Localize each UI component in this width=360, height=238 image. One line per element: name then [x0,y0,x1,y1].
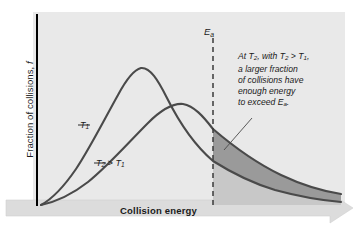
t2-compare-subscript: 1 [121,161,125,168]
annotation-line1-c: > [288,51,298,61]
plot-canvas [0,0,360,238]
y-axis-label-text: Fraction of collisions, [24,64,35,158]
annotation-line1-b: , with [257,51,279,61]
annotation-line5-a: to exceed [238,97,278,107]
maxwell-boltzmann-distribution-figure: Fraction of collisions, f Collision ener… [0,0,360,238]
annotation-line5-b: . [287,97,289,107]
activation-energy-subscript: a [210,31,214,38]
t1-subscript: 1 [86,123,90,130]
y-axis-label: Fraction of collisions, f [24,25,35,195]
t2-relation: > [105,158,115,168]
activation-energy-label: Ea [204,26,214,38]
annotation-line4: enough energy [238,86,295,96]
annotation-line3: of collisions have [238,75,303,85]
annotation-line1-a: At [238,51,249,61]
curve-label-t2: T2 > T1 [96,158,124,168]
curve-label-t1: T1 [80,120,89,130]
x-axis-label: Collision energy [120,205,197,216]
annotation-line1-d: , [307,51,309,61]
annotation-text-block: At T2, with T2 > T1,a larger fractionof … [238,51,342,110]
annotation-line2: a larger fraction [238,64,298,74]
y-axis-label-symbol: f [24,61,35,64]
